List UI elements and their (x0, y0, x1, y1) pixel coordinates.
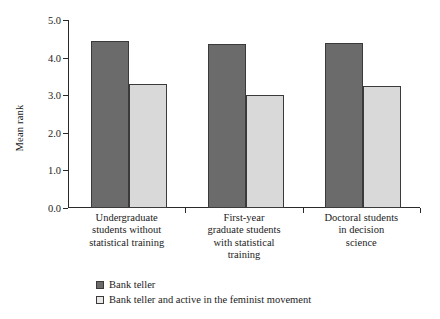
bar (325, 43, 363, 208)
legend-swatch-icon (96, 296, 104, 304)
x-category-label-line: science (303, 237, 420, 249)
y-tick (63, 133, 68, 134)
y-tick-label: 3.0 (48, 90, 61, 101)
legend-swatch-icon (96, 281, 104, 289)
bar (91, 41, 129, 208)
y-tick-label: 5.0 (48, 15, 61, 26)
x-category-label-line: graduate students (185, 224, 302, 236)
y-tick (63, 170, 68, 171)
bar (246, 95, 284, 208)
x-category-label-line: in decision (303, 224, 420, 236)
legend-item-bank-teller: Bank teller (96, 277, 311, 292)
y-axis-title: Mean rank (14, 0, 25, 70)
x-tick (420, 208, 421, 213)
x-category-label-line: Undergraduate (68, 212, 185, 224)
plot-area: 0.01.02.03.04.05.0 (68, 20, 420, 208)
x-category-label: Undergraduatestudents withoutstatistical… (68, 212, 185, 249)
legend-label: Bank teller and active in the feminist m… (109, 292, 311, 307)
x-category-label: Doctoral studentsin decisionscience (303, 212, 420, 249)
x-category-label-line: training (185, 249, 302, 261)
y-tick (63, 208, 68, 209)
y-tick-label: 4.0 (48, 52, 61, 63)
legend-item-bank-teller-feminist: Bank teller and active in the feminist m… (96, 292, 311, 307)
x-category-label: First-yeargraduate studentswith statisti… (185, 212, 302, 262)
x-category-label-line: with statistical (185, 237, 302, 249)
x-category-label-line: Doctoral students (303, 212, 420, 224)
x-category-label-line: students without (68, 224, 185, 236)
bar (208, 44, 246, 208)
x-category-label-line: statistical training (68, 237, 185, 249)
bar-chart: Mean rank 0.01.02.03.04.05.0 Undergradua… (0, 0, 440, 319)
x-category-label-line: First-year (185, 212, 302, 224)
y-tick (63, 95, 68, 96)
bar (363, 86, 401, 208)
chart-legend: Bank teller Bank teller and active in th… (96, 277, 311, 307)
bar (129, 84, 167, 208)
y-axis-line (68, 20, 69, 208)
y-tick (63, 20, 68, 21)
y-tick-label: 2.0 (48, 127, 61, 138)
legend-label: Bank teller (109, 277, 155, 292)
y-tick (63, 58, 68, 59)
y-tick-label: 0.0 (48, 203, 61, 214)
y-tick-label: 1.0 (48, 165, 61, 176)
